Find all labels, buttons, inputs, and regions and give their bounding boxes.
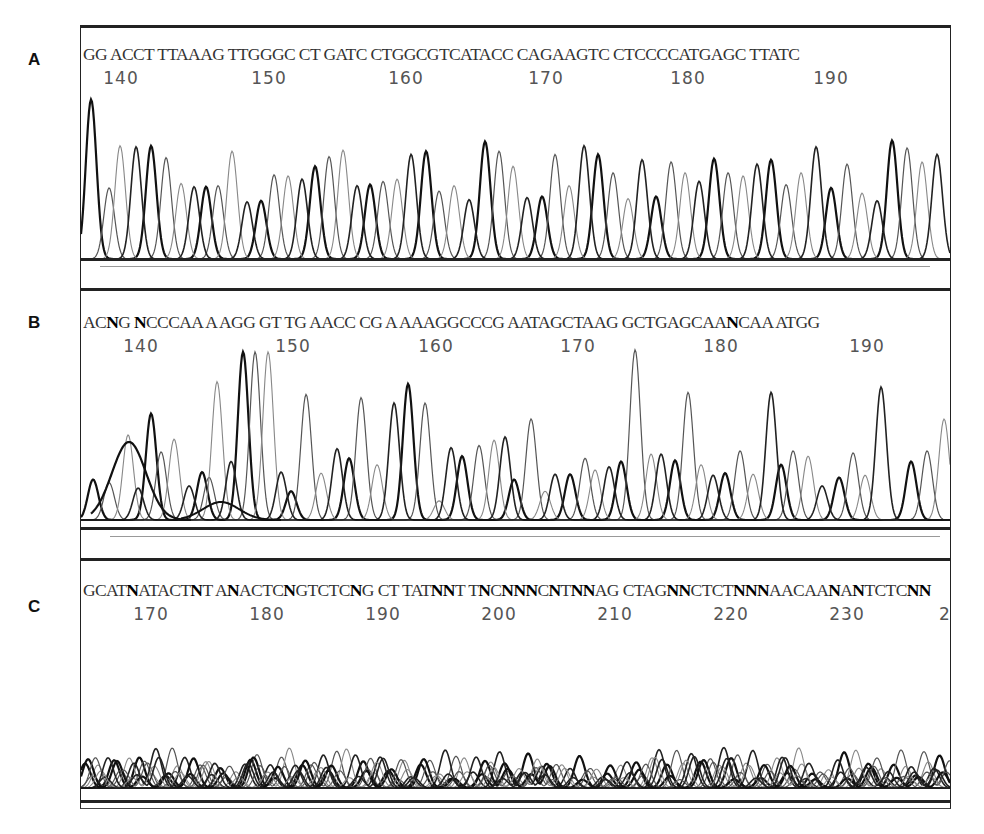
ambiguous-base: N [852, 580, 864, 600]
base-segment: CTCT [691, 580, 733, 600]
base-calls-a: GG ACCT TTAAAG TTGGGC CT GATC CTGGCGTCAT… [83, 44, 949, 65]
base-segment: GTCTC [295, 580, 349, 600]
base-segment: ATACT [138, 580, 190, 600]
divider [81, 558, 950, 561]
base-segment: ACTC [239, 580, 283, 600]
ambiguous-base: NN [666, 580, 690, 600]
trace-a [81, 84, 950, 264]
base-segment: CAA ATGG [738, 312, 819, 332]
base-segment: TCTC [864, 580, 906, 600]
divider [81, 288, 950, 291]
ambiguous-base: N [350, 580, 362, 600]
ambiguous-base: N [126, 580, 138, 600]
divider [100, 266, 930, 267]
base-calls-b: ACNG NCCCAA A AGG GT TG AACC CG A AAAGGC… [83, 312, 949, 333]
base-segment: GCG [404, 44, 439, 64]
divider [81, 800, 950, 803]
base-segment: C [490, 580, 501, 600]
ambiguous-base: NN [571, 580, 595, 600]
ambiguous-base: N [134, 312, 146, 332]
panel-label-c: C [28, 597, 40, 617]
panel-label-a: A [28, 50, 40, 70]
ambiguous-base: N [106, 312, 118, 332]
chromatogram-panel-b: ACNG NCCCAA A AGG GT TG AACC CG A AAAGGC… [81, 312, 950, 532]
chromatogram-panel-c: GCATNATACTNT ANACTCNGTCTCNG CT TATNNT TN… [81, 580, 950, 805]
ambiguous-base: NNN [501, 580, 537, 600]
base-segment: AC [83, 312, 106, 332]
trace-c [81, 620, 950, 800]
ambiguous-base: N [726, 312, 738, 332]
base-segment: CT TTAAAG TTGGGC CT GATC CTG [133, 44, 404, 64]
base-calls-c: GCATNATACTNT ANACTCNGTCTCNG CT TATNNT TN… [83, 580, 949, 601]
ambiguous-base: N [283, 580, 295, 600]
ambiguous-base: NN [431, 580, 455, 600]
base-segment: T A [202, 580, 227, 600]
trace-channel [81, 350, 950, 520]
base-segment: A [840, 580, 852, 600]
base-segment: GCAT [83, 580, 126, 600]
base-segment: T T [455, 580, 478, 600]
base-segment: AACAA [769, 580, 828, 600]
ambiguous-base: N [227, 580, 239, 600]
panel-label-b: B [28, 313, 40, 333]
base-segment: TCATACC CAGAAGTC CTCCCCATGAGC TTATC [439, 44, 799, 64]
trace-channel [81, 387, 950, 520]
base-segment: AG CTAG [595, 580, 667, 600]
base-segment: CCCAA A AGG GT TG AACC CG A AAAGGCCCG AA… [146, 312, 726, 332]
trace-b [81, 342, 950, 522]
base-segment: C [537, 580, 548, 600]
ambiguous-base: N [828, 580, 840, 600]
trace-channel [81, 146, 950, 259]
base-segment: G CT TAT [362, 580, 431, 600]
divider [81, 527, 950, 530]
ambiguous-base: N [190, 580, 202, 600]
trace-channel [81, 352, 950, 520]
divider [110, 536, 940, 537]
divider [81, 258, 950, 261]
ambiguous-base: NN [907, 580, 931, 600]
ambiguous-base: N [478, 580, 490, 600]
base-segment: G [118, 312, 134, 332]
ambiguous-base: NNN [733, 580, 769, 600]
base-segment: T [561, 580, 571, 600]
chromatogram-panel-a: GG ACCT TTAAAG TTGGGC CT GATC CTGGCGTCAT… [81, 44, 950, 272]
base-segment: GG AC [83, 44, 133, 64]
ambiguous-base: N [549, 580, 561, 600]
